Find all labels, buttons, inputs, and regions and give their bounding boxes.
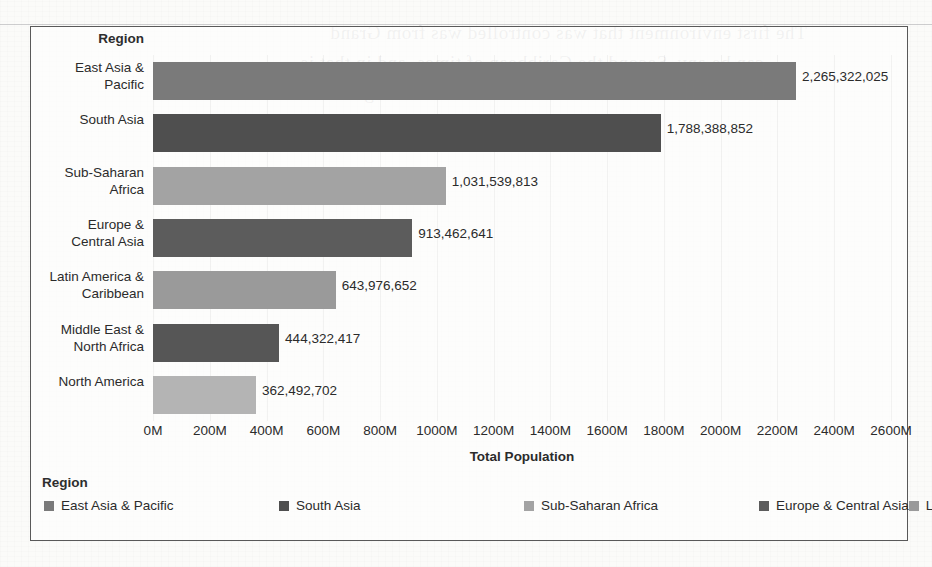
category-label: South Asia [31, 111, 153, 128]
x-axis-tick-labels: 0M200M400M600M800M1000M1200M1400M1600M18… [153, 423, 891, 445]
legend-item[interactable]: South Asia [279, 495, 524, 516]
x-tick-label: 1400M [530, 423, 571, 438]
bar-row: Latin America & Caribbean643,976,652 [153, 264, 891, 316]
bar-value-label: 2,265,322,025 [802, 69, 888, 84]
x-tick-label: 800M [363, 423, 397, 438]
x-tick-label: 0M [144, 423, 163, 438]
page-top-rule [0, 24, 932, 25]
bar-row: North America362,492,702 [153, 369, 891, 421]
legend-item-label: Latin America & Caribbean [926, 498, 932, 513]
x-tick-label: 200M [193, 423, 227, 438]
category-label: Latin America & Caribbean [31, 268, 153, 302]
x-tick-label: 1600M [587, 423, 628, 438]
bar-row: South Asia1,788,388,852 [153, 107, 891, 159]
legend-item[interactable]: Latin America & Caribbean [909, 495, 932, 516]
legend-item-label: Europe & Central Asia [776, 498, 909, 513]
legend-item-label: East Asia & Pacific [61, 498, 174, 513]
gridline [891, 55, 892, 421]
bar-value-label: 913,462,641 [418, 226, 493, 241]
category-label: East Asia & Pacific [31, 59, 153, 93]
chart-legend: Region East Asia & PacificSouth AsiaSub-… [42, 475, 901, 536]
x-tick-label: 400M [250, 423, 284, 438]
category-label: North America [31, 373, 153, 390]
x-tick-label: 1800M [643, 423, 684, 438]
bar-row: East Asia & Pacific2,265,322,025 [153, 55, 891, 107]
bar[interactable] [153, 62, 796, 100]
category-label: Sub-Saharan Africa [31, 164, 153, 198]
legend-swatch-icon [759, 501, 769, 511]
bar-chart-container: Region East Asia & Pacific2,265,322,025S… [30, 26, 908, 541]
bar-value-label: 643,976,652 [342, 278, 417, 293]
bar-value-label: 362,492,702 [262, 383, 337, 398]
x-tick-label: 2600M [870, 423, 911, 438]
legend-title: Region [42, 475, 88, 490]
bar-row: Middle East & North Africa444,322,417 [153, 317, 891, 369]
row-header-region: Region [31, 31, 144, 46]
bar-row: Sub-Saharan Africa1,031,539,813 [153, 160, 891, 212]
plot-area: East Asia & Pacific2,265,322,025South As… [153, 55, 891, 421]
legend-swatch-icon [909, 501, 919, 511]
bar-value-label: 1,788,388,852 [667, 121, 753, 136]
bar[interactable] [153, 219, 412, 257]
legend-item-label: Sub-Saharan Africa [541, 498, 658, 513]
x-tick-label: 2000M [700, 423, 741, 438]
category-label: Middle East & North Africa [31, 321, 153, 355]
legend-swatch-icon [524, 501, 534, 511]
x-tick-label: 2400M [814, 423, 855, 438]
x-tick-label: 600M [306, 423, 340, 438]
legend-swatch-icon [279, 501, 289, 511]
x-tick-label: 1000M [416, 423, 457, 438]
legend-item[interactable]: East Asia & Pacific [44, 495, 279, 516]
x-tick-label: 1200M [473, 423, 514, 438]
bar-value-label: 1,031,539,813 [452, 174, 538, 189]
legend-item-label: South Asia [296, 498, 361, 513]
legend-item[interactable]: Sub-Saharan Africa [524, 495, 759, 516]
legend-items: East Asia & PacificSouth AsiaSub-Saharan… [44, 495, 901, 516]
bar-value-label: 444,322,417 [285, 331, 360, 346]
bar[interactable] [153, 324, 279, 362]
legend-swatch-icon [44, 501, 54, 511]
bar[interactable] [153, 114, 661, 152]
bar[interactable] [153, 376, 256, 414]
bar[interactable] [153, 167, 446, 205]
category-label: Europe & Central Asia [31, 216, 153, 250]
legend-item[interactable]: Europe & Central Asia [759, 495, 909, 516]
chart-plot-wrapper: Region East Asia & Pacific2,265,322,025S… [31, 27, 907, 540]
x-axis-title: Total Population [153, 449, 891, 464]
bar-row: Europe & Central Asia913,462,641 [153, 212, 891, 264]
bar[interactable] [153, 271, 336, 309]
x-tick-label: 2200M [757, 423, 798, 438]
